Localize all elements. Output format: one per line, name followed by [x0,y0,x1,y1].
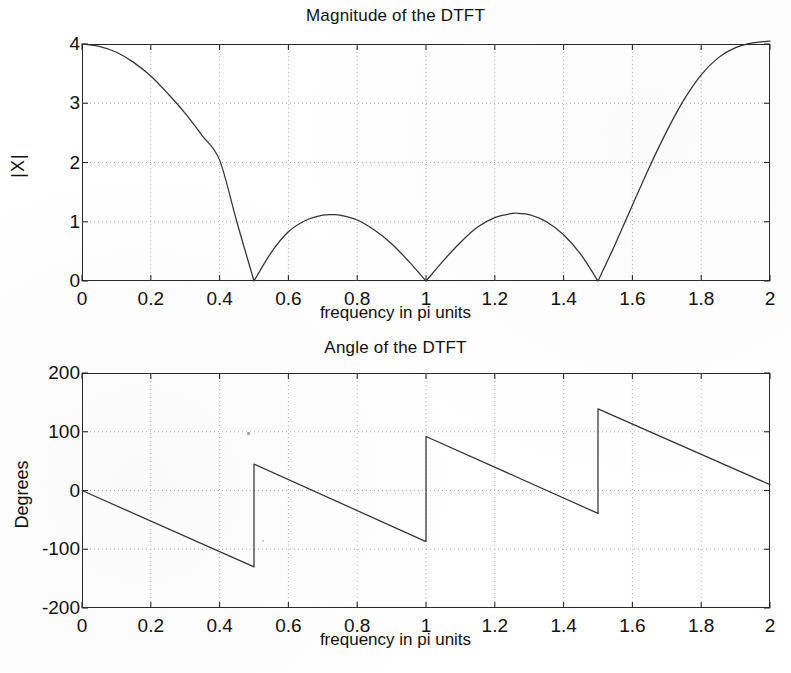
magnitude-panel: Magnitude of the DTFT |X| 4 3 2 1 0 0 0.… [0,0,791,336]
angle-ytick-neg200: -200 [6,597,80,619]
magnitude-ytick-4: 4 [20,33,80,55]
angle-data-curve [82,409,770,567]
angle-ytick-neg100: -100 [6,538,80,560]
angle-curve-svg [82,373,770,608]
magnitude-plot-title: Magnitude of the DTFT [0,6,791,26]
magnitude-plot-area [82,44,770,281]
angle-ytick-0: 0 [6,480,80,502]
magnitude-ytick-1: 1 [20,211,80,233]
angle-ytick-200: 200 [6,362,80,384]
magnitude-ytick-2: 2 [20,152,80,174]
angle-plot-area [82,373,770,608]
magnitude-gridlines [82,44,770,281]
angle-plot-title: Angle of the DTFT [0,338,791,358]
angle-x-axis-label: frequency in pi units [0,630,791,650]
magnitude-ytick-3: 3 [20,92,80,114]
angle-panel: Angle of the DTFT Degrees 200 100 0 -100… [0,336,791,673]
dtft-figure: Magnitude of the DTFT |X| 4 3 2 1 0 0 0.… [0,0,791,673]
angle-ytick-100: 100 [6,421,80,443]
magnitude-x-axis-label: frequency in pi units [0,303,791,323]
magnitude-data-curve [82,41,770,281]
magnitude-ytick-0: 0 [20,270,80,292]
magnitude-curve-svg [82,44,770,281]
